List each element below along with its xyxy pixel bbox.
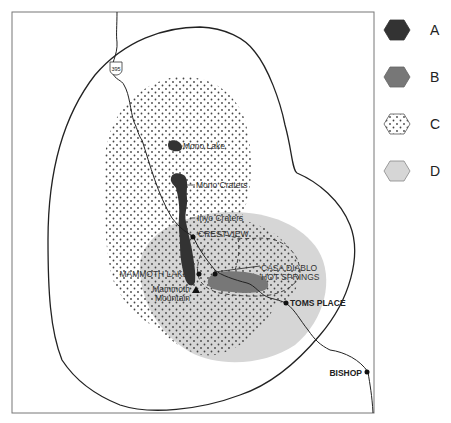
legend-label-a: A xyxy=(430,22,440,38)
casa-diablo-marker xyxy=(213,272,218,277)
bishop-marker xyxy=(365,370,370,375)
legend: A B C D xyxy=(384,20,440,181)
legend-label-b: B xyxy=(430,69,439,85)
map-canvas: 395 Mono Lake Mono Craters Inyo Craters … xyxy=(0,0,451,423)
svg-text:395: 395 xyxy=(111,66,120,72)
mammoth-lakes-marker xyxy=(197,272,202,277)
label-crestview: CRESTVIEW xyxy=(198,229,249,239)
legend-swatch-a xyxy=(384,20,410,40)
label-mono-craters: Mono Craters xyxy=(196,180,248,190)
label-bishop: BISHOP xyxy=(329,368,362,378)
label-mammoth-mountain-2: Mountain xyxy=(155,293,190,303)
toms-place-marker xyxy=(284,301,289,306)
legend-item-c: C xyxy=(384,114,440,134)
legend-label-d: D xyxy=(430,163,440,179)
legend-item-a: A xyxy=(384,20,440,40)
label-casa-diablo-2: HOT SPRINGS xyxy=(261,272,320,282)
label-toms-place: TOMS PLACE xyxy=(290,298,346,308)
legend-swatch-b xyxy=(384,67,410,87)
label-mammoth-lakes: MAMMOTH LAKES xyxy=(119,269,194,279)
legend-item-d: D xyxy=(384,161,440,181)
crestview-marker xyxy=(191,235,196,240)
legend-label-c: C xyxy=(430,116,440,132)
legend-swatch-c xyxy=(384,114,410,134)
label-inyo-craters: Inyo Craters xyxy=(197,213,243,223)
legend-swatch-d xyxy=(384,161,410,181)
legend-item-b: B xyxy=(384,67,439,87)
highway-395-shield: 395 xyxy=(110,62,122,75)
label-mono-lake: Mono Lake xyxy=(183,141,225,151)
